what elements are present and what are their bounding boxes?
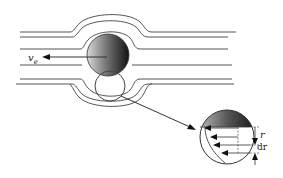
dr-label: dr (257, 142, 268, 152)
streamlines-top (20, 15, 236, 49)
profile-arrows (204, 125, 250, 156)
velocity-label: ve (28, 52, 38, 66)
streamline (20, 21, 228, 37)
sphere (87, 34, 129, 76)
streamline (20, 79, 232, 96)
streamline (70, 84, 152, 106)
detail-view (198, 108, 260, 165)
diagram-canvas: ve (0, 0, 283, 178)
sphere-cap (198, 108, 258, 127)
leader-arrow (121, 96, 196, 130)
radius-label: r (260, 129, 266, 140)
dr-arrow (252, 153, 258, 160)
